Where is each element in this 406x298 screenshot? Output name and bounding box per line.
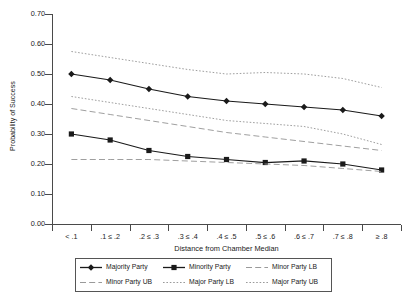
- legend-item-minority-party[interactable]: Minority Party: [162, 263, 245, 272]
- data-point-marker: [185, 154, 190, 159]
- data-point-marker: [378, 113, 384, 119]
- series-plot: [0, 0, 406, 298]
- legend-swatch-dashed: [245, 263, 269, 272]
- data-point-marker: [107, 77, 113, 83]
- legend-swatch-dotted: [162, 278, 186, 287]
- data-point-marker: [301, 104, 307, 110]
- series-line-minority-party: [71, 134, 381, 170]
- data-point-marker: [185, 93, 191, 99]
- legend-swatch-solid: [162, 263, 186, 272]
- data-point-marker: [340, 107, 346, 113]
- legend-swatch-dashed: [79, 278, 103, 287]
- data-point-marker: [262, 101, 268, 107]
- legend-label: Minor Party UB: [106, 279, 152, 286]
- data-point-marker: [224, 157, 229, 162]
- data-point-marker: [146, 148, 151, 153]
- data-point-marker: [340, 161, 345, 166]
- probability-of-success-chart: 0.000.100.200.300.400.500.600.70 < .1.1 …: [0, 0, 406, 298]
- legend-swatch-solid: [79, 263, 103, 272]
- data-point-marker: [68, 71, 74, 77]
- legend-label: Major Party UB: [272, 279, 318, 286]
- legend-item-major-party-ub[interactable]: Major Party UB: [245, 278, 328, 287]
- data-point-marker: [108, 137, 113, 142]
- series-line-majority-party: [71, 74, 381, 116]
- chart-legend: Majority PartyMinority PartyMinor Party …: [75, 258, 332, 292]
- legend-label: Majority Party: [106, 264, 148, 271]
- data-point-marker: [301, 158, 306, 163]
- legend-item-major-party-lb[interactable]: Major Party LB: [162, 278, 245, 287]
- legend-label: Minority Party: [189, 264, 231, 271]
- legend-label: Minor Party LB: [272, 264, 317, 271]
- legend-item-minor-party-lb[interactable]: Minor Party LB: [245, 263, 328, 272]
- data-point-marker: [223, 98, 229, 104]
- legend-label: Major Party LB: [189, 279, 234, 286]
- data-point-marker: [69, 131, 74, 136]
- legend-item-majority-party[interactable]: Majority Party: [79, 263, 162, 272]
- legend-item-minor-party-ub[interactable]: Minor Party UB: [79, 278, 162, 287]
- legend-swatch-dotted: [245, 278, 269, 287]
- data-point-marker: [146, 86, 152, 92]
- series-line-minor-party-ub: [71, 109, 381, 151]
